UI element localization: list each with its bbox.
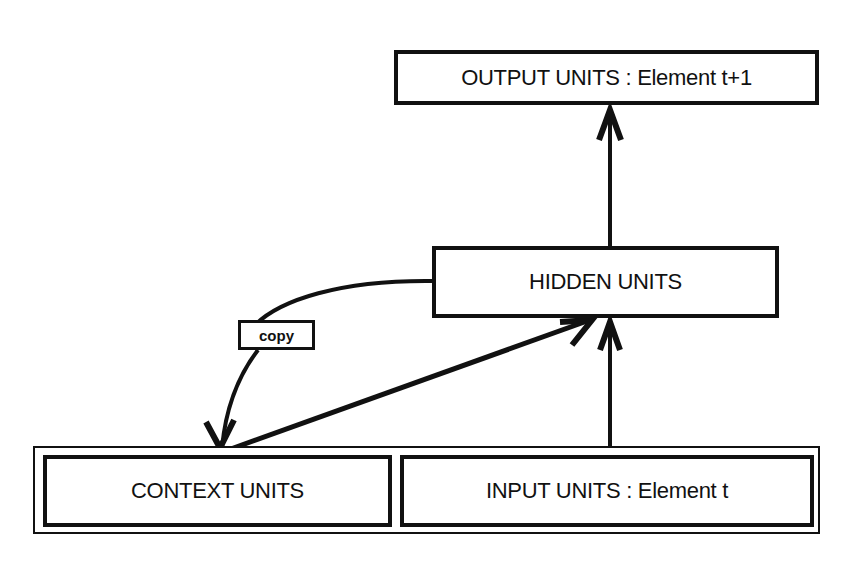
arrow-input-to-hidden <box>600 322 620 455</box>
output-units-node: OUTPUT UNITS : Element t+1 <box>394 50 819 105</box>
context-units-label: CONTEXT UNITS <box>131 478 304 504</box>
hidden-units-node: HIDDEN UNITS <box>432 246 779 318</box>
input-units-node: INPUT UNITS : Element t <box>400 455 814 527</box>
arrow-hidden-to-context-copy <box>206 281 432 448</box>
output-units-label: OUTPUT UNITS : Element t+1 <box>461 65 752 91</box>
context-units-node: CONTEXT UNITS <box>43 455 392 527</box>
hidden-units-label: HIDDEN UNITS <box>529 269 682 295</box>
input-units-label: INPUT UNITS : Element t <box>486 478 728 504</box>
copy-label-text: copy <box>259 327 294 344</box>
arrow-hidden-to-output <box>599 110 621 246</box>
copy-edge-label: copy <box>238 320 315 350</box>
